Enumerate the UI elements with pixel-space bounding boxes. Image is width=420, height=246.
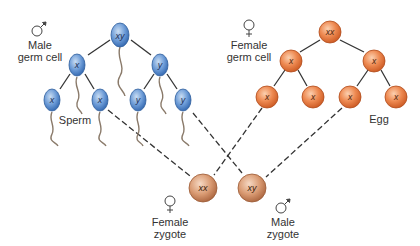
svg-text:x: x xyxy=(49,95,55,105)
svg-text:y: y xyxy=(180,95,186,105)
sperm-parent-cell: xy xyxy=(111,23,129,47)
label-line: germ cell xyxy=(218,51,280,63)
female-zygote-label: Female zygote xyxy=(148,216,192,240)
female-symbol-icon xyxy=(244,20,254,37)
egg-cells: x x x x xyxy=(256,86,407,108)
egg-parent-cell: xx xyxy=(319,21,341,43)
sperm-level2-cells: x y xyxy=(69,54,168,76)
label-line: Male xyxy=(262,216,304,228)
male-zygote-symbol-icon xyxy=(276,199,290,213)
svg-text:x: x xyxy=(310,92,316,102)
egg-level2-cells: x x xyxy=(280,50,385,72)
svg-text:xx: xx xyxy=(198,183,209,193)
svg-text:x: x xyxy=(74,60,80,70)
sperm-label: Sperm xyxy=(57,114,93,126)
svg-text:y: y xyxy=(135,95,141,105)
svg-text:x: x xyxy=(393,92,399,102)
genotype-label: xy xyxy=(115,31,126,41)
male-germ-cell-label: Male germ cell xyxy=(14,39,66,63)
female-zygote-cell: xx xyxy=(189,174,217,202)
svg-text:x: x xyxy=(288,56,294,66)
svg-text:xy: xy xyxy=(247,183,258,193)
label-line: Female xyxy=(148,216,192,228)
female-germ-cell-label: Female germ cell xyxy=(218,39,280,63)
sex-determination-diagram: xy x y x x y y xx x x x x x x xyxy=(0,0,420,246)
male-zygote-cell: xy xyxy=(238,174,266,202)
label-line: Female xyxy=(218,39,280,51)
label-line: germ cell xyxy=(14,51,66,63)
svg-text:x: x xyxy=(347,92,353,102)
label-line: zygote xyxy=(148,228,192,240)
svg-text:x: x xyxy=(371,56,377,66)
svg-text:x: x xyxy=(97,95,103,105)
fertilization-lines xyxy=(108,108,342,177)
label-line: zygote xyxy=(262,228,304,240)
female-zygote-symbol-icon xyxy=(165,196,175,213)
sperm-cells: x x y y xyxy=(44,89,191,111)
svg-text:x: x xyxy=(264,92,270,102)
egg-label: Egg xyxy=(366,113,392,125)
svg-text:xx: xx xyxy=(325,27,335,37)
label-line: Male xyxy=(14,39,66,51)
male-symbol-icon xyxy=(32,22,46,36)
svg-text:y: y xyxy=(157,60,163,70)
male-zygote-label: Male zygote xyxy=(262,216,304,240)
